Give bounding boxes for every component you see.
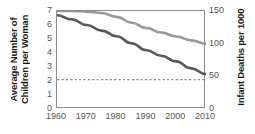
left-tick-3: 3 [38,61,52,71]
x-tick-1970: 1970 [72,111,100,121]
series-line-0 [57,11,206,44]
left-tick-7: 7 [38,5,52,15]
right-tick-50: 50 [209,70,231,80]
x-tick-1960: 1960 [42,111,70,121]
right-tick-100: 100 [209,38,231,48]
left-tick-5: 5 [38,33,52,43]
right-axis-title: Infant Deaths per 1000 [236,2,247,112]
chart-container: Average Number of Children per Woman Inf… [0,0,255,134]
left-tick-1: 1 [38,89,52,99]
plot-area [56,10,205,108]
left-axis-title-line1: Average Number of [9,10,20,110]
x-tick-2000: 2000 [161,111,189,121]
x-tick-1990: 1990 [131,111,159,121]
x-tick-2010: 2010 [191,111,219,121]
x-tick-1980: 1980 [102,111,130,121]
left-axis-title-line2: Children per Woman [19,10,30,110]
left-tick-2: 2 [38,75,52,85]
right-tick-150: 150 [209,5,231,15]
left-axis-title: Average Number of Children per Woman [9,10,30,110]
plot-lines [57,11,206,109]
left-tick-4: 4 [38,47,52,57]
left-tick-6: 6 [38,19,52,29]
